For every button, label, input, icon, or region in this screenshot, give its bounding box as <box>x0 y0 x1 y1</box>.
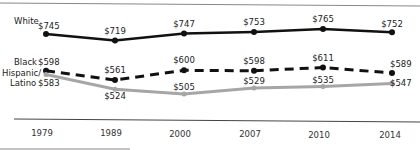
value-label: $547 <box>390 78 412 88</box>
value-label: $524 <box>104 91 126 101</box>
value-label: $598 <box>38 57 60 67</box>
data-point-marker <box>389 29 395 35</box>
value-label: $529 <box>243 76 265 86</box>
x-tick-label: 2000 <box>169 129 191 139</box>
value-label: $561 <box>104 65 126 75</box>
value-label: $535 <box>312 75 334 85</box>
value-label: $598 <box>243 56 265 66</box>
data-point-marker <box>182 92 187 97</box>
x-tick-labels: 197919892000200720102014 <box>31 128 401 140</box>
value-label: $752 <box>381 19 403 29</box>
x-tick-label: 2007 <box>239 129 261 139</box>
data-point-marker <box>251 29 257 35</box>
value-label: $719 <box>104 26 126 36</box>
legend-hispanic-line1: Hispanic/ <box>2 68 41 78</box>
x-axis <box>14 119 420 122</box>
data-point-marker <box>320 26 326 32</box>
value-label: $583 <box>38 78 60 88</box>
value-labels: $745$719$747$753$765$752$598$561$600$598… <box>38 14 412 101</box>
x-tick-label: 1989 <box>100 128 122 138</box>
value-label: $505 <box>173 82 195 92</box>
chart-svg: $745$719$747$753$765$752$598$561$600$598… <box>0 0 420 150</box>
line-chart: $745$719$747$753$765$752$598$561$600$598… <box>0 0 420 150</box>
top-rule <box>0 3 420 6</box>
value-label: $745 <box>38 21 60 31</box>
data-point-marker <box>44 72 49 77</box>
value-label: $747 <box>173 19 195 29</box>
legend-white: White <box>14 16 39 26</box>
series-line-black <box>46 68 392 81</box>
legend-hispanic-line2: Latino <box>10 78 36 88</box>
data-point-marker <box>181 31 187 37</box>
value-label: $589 <box>390 59 412 69</box>
value-label: $765 <box>312 14 334 24</box>
series-line-white <box>46 29 392 41</box>
data-point-marker <box>43 31 49 37</box>
value-label: $753 <box>243 17 265 27</box>
data-point-marker <box>251 68 257 74</box>
x-tick-label: 2010 <box>308 130 330 140</box>
x-tick-label: 2014 <box>379 130 401 140</box>
legend-black: Black <box>14 57 37 67</box>
data-point-marker <box>321 84 326 89</box>
data-point-marker <box>252 86 257 91</box>
data-point-marker <box>112 77 118 83</box>
value-label: $611 <box>312 53 334 63</box>
data-point-marker <box>389 70 395 76</box>
data-point-marker <box>320 65 326 71</box>
x-tick-label: 1979 <box>31 128 53 138</box>
data-point-marker <box>181 67 187 73</box>
data-point-marker <box>112 38 118 44</box>
value-label: $600 <box>173 55 195 65</box>
